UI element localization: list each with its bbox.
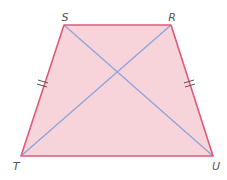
trapezium-fill: [21, 25, 213, 156]
trapezium-diagram: S R T U: [0, 0, 227, 180]
vertex-label-t: T: [13, 160, 21, 173]
vertex-label-s: S: [62, 11, 69, 24]
vertex-label-r: R: [168, 11, 176, 24]
vertex-label-u: U: [212, 160, 220, 173]
